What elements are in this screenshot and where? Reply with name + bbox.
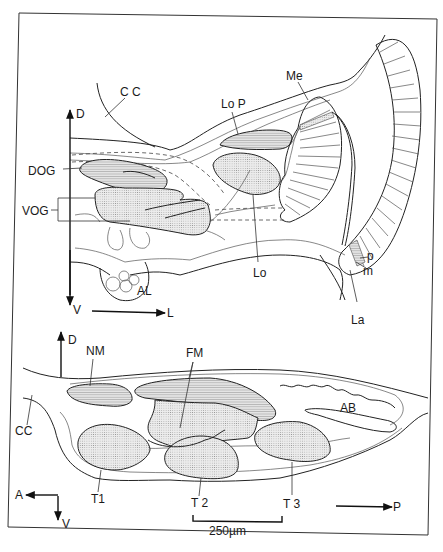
t3-ganglion xyxy=(255,422,331,462)
me-leader xyxy=(298,82,308,100)
dog-leader xyxy=(63,168,82,169)
axis-label-v-lower: V xyxy=(62,517,70,531)
lobula xyxy=(213,153,280,194)
t2-ganglion xyxy=(165,436,239,479)
lamina-hatched-segment xyxy=(349,240,365,266)
fm-leader-2 xyxy=(189,362,193,378)
p-axis-arrow xyxy=(336,506,392,507)
axis-label-p: P xyxy=(393,500,401,514)
label-p: p xyxy=(367,249,374,263)
al-lobes xyxy=(108,227,150,250)
vog-me-fiber xyxy=(215,205,275,215)
label-m: m xyxy=(363,264,373,278)
axis-label-d-upper: D xyxy=(76,107,85,121)
t1-leader xyxy=(98,470,101,492)
l-axis-arrow xyxy=(92,311,165,313)
label-me: Me xyxy=(286,69,303,83)
axis-label-l: L xyxy=(167,306,174,320)
t2-leader xyxy=(199,478,201,496)
lobula-plate xyxy=(220,130,292,150)
label-dog: DOG xyxy=(28,164,55,178)
label-la: La xyxy=(351,313,365,327)
label-cc-lower: CC xyxy=(15,424,33,438)
axis-label-d-lower: D xyxy=(68,333,77,347)
lo-leader xyxy=(253,195,258,262)
label-fm: FM xyxy=(186,346,203,360)
lamina-outer xyxy=(339,39,421,275)
axis-label-a: A xyxy=(15,488,23,502)
scale-bar xyxy=(193,515,282,522)
label-vog: VOG xyxy=(22,204,49,218)
upper-panel: C C Lo P Me DOG VOG Lo AL La p m D V L xyxy=(22,35,421,327)
axis-label-v-upper: V xyxy=(73,303,81,317)
label-lo: Lo xyxy=(253,266,267,280)
brain-ventral-inner xyxy=(75,240,345,262)
lower-panel: NM FM AB CC T1 T 2 T 3 D A V P 250µm xyxy=(15,332,428,538)
scale-bar-label: 250µm xyxy=(209,524,246,538)
nm-neuromere xyxy=(67,384,132,406)
label-t1: T1 xyxy=(91,492,105,506)
label-t3: T 3 xyxy=(283,497,300,511)
label-lop: Lo P xyxy=(221,97,246,111)
t1-ganglion xyxy=(78,424,150,470)
label-nm: NM xyxy=(86,344,105,358)
anatomical-diagram: C C Lo P Me DOG VOG Lo AL La p m D V L xyxy=(0,0,443,552)
label-t2: T 2 xyxy=(191,496,208,510)
medulla-columns xyxy=(285,110,340,215)
cc-leader xyxy=(105,98,125,117)
label-cc-upper: C C xyxy=(120,85,141,99)
label-al: AL xyxy=(137,284,152,298)
label-ab: AB xyxy=(340,401,356,415)
lop-leader xyxy=(232,112,238,134)
